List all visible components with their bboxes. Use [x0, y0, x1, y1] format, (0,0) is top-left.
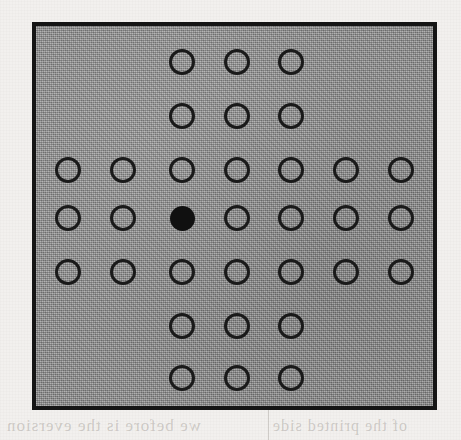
open-dot: [278, 259, 304, 285]
dot-array: [36, 26, 433, 406]
open-dot: [169, 313, 195, 339]
open-dot: [388, 205, 414, 231]
open-dot: [169, 49, 195, 75]
open-dot: [333, 157, 359, 183]
figure-panel: [32, 22, 437, 410]
open-dot: [169, 365, 195, 391]
open-dot: [388, 157, 414, 183]
open-dot: [169, 157, 195, 183]
open-dot: [388, 259, 414, 285]
open-dot: [278, 313, 304, 339]
open-dot: [169, 103, 195, 129]
open-dot: [55, 259, 81, 285]
open-dot: [224, 313, 250, 339]
open-dot: [278, 205, 304, 231]
open-dot: [224, 49, 250, 75]
open-dot: [278, 365, 304, 391]
open-dot: [110, 205, 136, 231]
open-dot: [278, 103, 304, 129]
open-dot: [278, 157, 304, 183]
open-dot: [224, 365, 250, 391]
scanned-page-background: pro tion we before is the eversion of th…: [0, 0, 461, 440]
open-dot: [55, 205, 81, 231]
filled-dot: [170, 206, 195, 231]
open-dot: [110, 157, 136, 183]
open-dot: [333, 259, 359, 285]
open-dot: [224, 157, 250, 183]
open-dot: [110, 259, 136, 285]
open-dot: [55, 157, 81, 183]
open-dot: [169, 259, 195, 285]
open-dot: [224, 259, 250, 285]
open-dot: [224, 103, 250, 129]
open-dot: [224, 205, 250, 231]
bleed-through-divider: [268, 408, 269, 440]
open-dot: [278, 49, 304, 75]
open-dot: [333, 205, 359, 231]
